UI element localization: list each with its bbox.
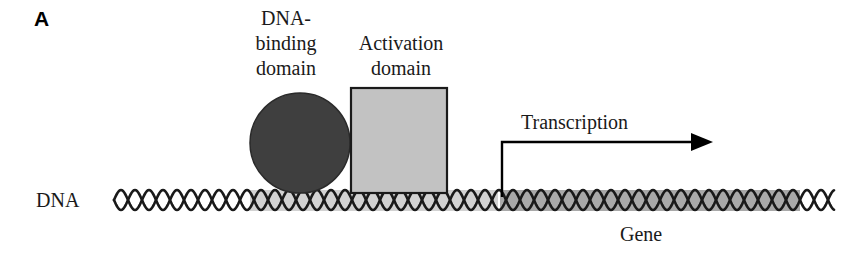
dna-binding-domain-shape [250, 93, 350, 193]
activation-domain-shape [351, 88, 447, 193]
figure-panel-a: A DNA- binding domain Activation domain … [0, 0, 866, 257]
transcription-arrow-icon [502, 133, 713, 197]
diagram-canvas [0, 0, 866, 257]
